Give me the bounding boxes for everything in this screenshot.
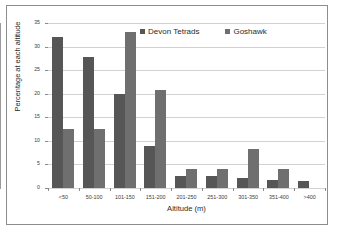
y-axis-line [0,23,1,189]
bar [125,32,136,189]
bar [144,146,155,188]
bar-group [140,23,171,188]
bar [175,176,186,188]
gridline [48,188,325,189]
x-axis-tick-mark [140,188,141,191]
plot-area [48,23,325,188]
y-axis-tick-label: 20 [34,91,40,96]
bar [63,129,74,188]
bar [155,90,166,188]
legend-item: Goshawk [225,27,266,36]
bar [52,37,63,188]
bar [206,176,217,188]
bar-group [263,23,294,188]
x-axis-tick-label: >400 [294,194,325,200]
bar [248,149,259,188]
x-axis-tick-label: 251-300 [202,194,233,200]
bar [298,181,309,188]
x-axis-tick-mark [48,188,49,191]
x-axis-tick-label: 50-100 [79,194,110,200]
bar [83,57,94,188]
chart-legend: Devon TetradsGoshawk [140,27,267,36]
x-axis-tick-mark [110,188,111,191]
y-axis-tick-label: 35 [34,20,40,25]
legend-label: Goshawk [233,27,266,36]
bar [267,180,278,188]
x-axis-tick-mark [171,188,172,191]
bar-group [171,23,202,188]
x-axis-tick-label: 351-400 [263,194,294,200]
x-axis-tick-mark [294,188,295,191]
y-axis-title: Percentage at each altitude [13,0,22,142]
legend-swatch-icon [225,29,230,34]
x-axis-tick-mark [263,188,264,191]
bar [278,169,289,188]
bar-group [294,23,325,188]
y-axis-tick-labels: 05101520253035 [0,0,46,233]
y-axis-tick-label: 25 [34,67,40,72]
x-axis-tick-label: 201-250 [171,194,202,200]
y-axis-tick-mark [45,47,48,48]
y-axis-tick-label: 30 [34,44,40,49]
x-axis-tick-label: 151-200 [140,194,171,200]
y-axis-tick-mark [45,164,48,165]
y-axis-tick-mark [45,23,48,24]
y-axis-tick-label: 15 [34,114,40,119]
y-axis-tick-mark [45,94,48,95]
bar [186,169,197,188]
x-axis-tick-label: 301-350 [233,194,264,200]
y-axis-tick-mark [45,70,48,71]
x-axis-tick-mark [202,188,203,191]
x-axis-tick-mark [325,188,326,191]
y-axis-tick-label: 0 [37,185,40,190]
bar [94,129,105,188]
bar-group [233,23,264,188]
legend-swatch-icon [140,29,145,34]
x-axis-tick-label: <50 [48,194,79,200]
legend-label: Devon Tetrads [148,27,199,36]
bar-group [110,23,141,188]
bar-group [202,23,233,188]
bar [237,178,248,188]
y-axis-tick-label: 5 [37,161,40,166]
x-axis-title: Altitude (m) [48,204,325,213]
x-axis-tick-label: 101-150 [110,194,141,200]
y-axis-tick-mark [45,141,48,142]
y-axis-tick-mark [45,117,48,118]
bar-group [48,23,79,188]
x-axis-tick-mark [79,188,80,191]
y-axis-tick-label: 10 [34,138,40,143]
bar [217,169,228,188]
legend-item: Devon Tetrads [140,27,199,36]
bar [114,94,125,188]
x-axis-tick-mark [233,188,234,191]
bar-group [79,23,110,188]
